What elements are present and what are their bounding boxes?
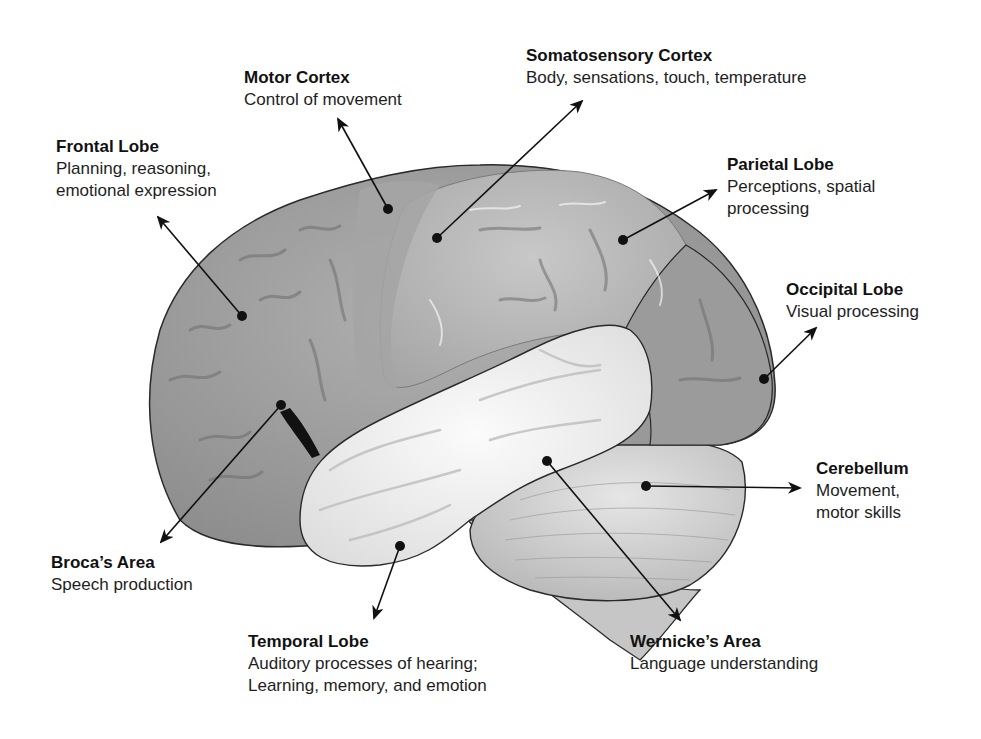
label-brocas-area: Broca’s Area Speech production xyxy=(51,552,193,596)
label-description: Learning, memory, and emotion xyxy=(248,675,487,697)
label-title: Wernicke’s Area xyxy=(630,631,818,653)
pointer-dot-motor-cortex xyxy=(383,204,393,214)
pointer-dot-cerebellum xyxy=(641,481,651,491)
label-description: Auditory processes of hearing; xyxy=(248,653,487,675)
label-description: Language understanding xyxy=(630,653,818,675)
label-frontal-lobe: Frontal Lobe Planning, reasoning, emotio… xyxy=(56,136,217,202)
label-description: Visual processing xyxy=(786,301,919,323)
label-title: Parietal Lobe xyxy=(727,154,875,176)
pointer-dot-brocas-area xyxy=(276,400,286,410)
brain-diagram: Motor Cortex Control of movement Somatos… xyxy=(0,0,981,739)
pointer-dot-wernickes-area xyxy=(542,456,552,466)
label-title: Temporal Lobe xyxy=(248,631,487,653)
pointer-dot-frontal-lobe xyxy=(237,311,247,321)
label-description: Planning, reasoning, xyxy=(56,158,217,180)
label-description: Perceptions, spatial xyxy=(727,176,875,198)
label-title: Motor Cortex xyxy=(244,67,402,89)
label-occipital-lobe: Occipital Lobe Visual processing xyxy=(786,279,919,323)
label-title: Frontal Lobe xyxy=(56,136,217,158)
brain-illustration xyxy=(0,0,981,739)
label-parietal-lobe: Parietal Lobe Perceptions, spatial proce… xyxy=(727,154,875,220)
label-description: processing xyxy=(727,198,875,220)
label-description: Speech production xyxy=(51,574,193,596)
label-description: Control of movement xyxy=(244,89,402,111)
label-temporal-lobe: Temporal Lobe Auditory processes of hear… xyxy=(248,631,487,697)
pointer-dot-occipital-lobe xyxy=(759,374,769,384)
label-cerebellum: Cerebellum Movement, motor skills xyxy=(816,458,909,524)
label-description: Movement, xyxy=(816,480,909,502)
label-title: Broca’s Area xyxy=(51,552,193,574)
label-title: Occipital Lobe xyxy=(786,279,919,301)
label-description: motor skills xyxy=(816,502,909,524)
label-description: emotional expression xyxy=(56,180,217,202)
label-description: Body, sensations, touch, temperature xyxy=(526,67,806,89)
label-title: Somatosensory Cortex xyxy=(526,45,806,67)
pointer-dot-parietal-lobe xyxy=(618,235,628,245)
label-motor-cortex: Motor Cortex Control of movement xyxy=(244,67,402,111)
label-somatosensory-cortex: Somatosensory Cortex Body, sensations, t… xyxy=(526,45,806,89)
pointer-dot-temporal-lobe xyxy=(395,541,405,551)
label-title: Cerebellum xyxy=(816,458,909,480)
label-wernickes-area: Wernicke’s Area Language understanding xyxy=(630,631,818,675)
pointer-dot-somatosensory-cortex xyxy=(432,233,442,243)
